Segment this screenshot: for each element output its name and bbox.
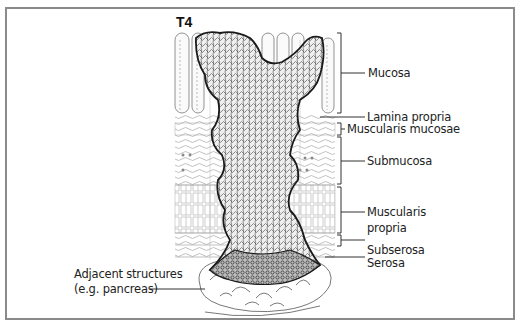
- label-adjacent-structures: Adjacent structures: [74, 268, 182, 281]
- label-serosa: Serosa: [367, 257, 405, 270]
- stage-title: T4: [176, 14, 192, 30]
- label-adjacent-example: (e.g. pancreas): [74, 283, 158, 296]
- label-muscularis-mucosae: Muscularis mucosae: [347, 123, 460, 136]
- label-muscularis-propria-line1: Muscularis: [367, 206, 426, 219]
- label-submucosa: Submucosa: [367, 155, 432, 168]
- label-mucosa: Mucosa: [368, 67, 410, 80]
- label-muscularis-propria-line2: propria: [367, 222, 407, 235]
